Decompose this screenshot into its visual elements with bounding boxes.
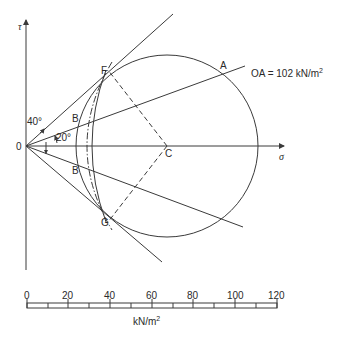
point-B-lower-label: B — [72, 165, 79, 176]
mohr-circle-diagram: τ σ 0 A F B B C G 40° 20° OA = 102 kN/m2… — [0, 0, 343, 343]
line-20-lower — [26, 146, 243, 227]
point-A-label: A — [220, 60, 227, 71]
origin-label: 0 — [16, 141, 22, 152]
angle-40-label: 40° — [27, 116, 42, 127]
scale-tick-0: 0 — [24, 290, 30, 301]
scale-tick-60: 60 — [146, 290, 158, 301]
scale-unit-label: kN/m2 — [133, 315, 160, 327]
scale-tick-40: 40 — [104, 290, 116, 301]
line-40-lower — [26, 146, 162, 262]
oa-annotation: OA = 102 kN/m2 — [251, 67, 323, 79]
scale-tick-120: 120 — [268, 290, 285, 301]
scale-tick-80: 80 — [187, 290, 199, 301]
scale-tick-100: 100 — [227, 290, 244, 301]
point-B-upper-label: B — [72, 113, 79, 124]
line-40-upper — [26, 14, 173, 146]
dashed-CG — [108, 146, 167, 222]
point-F-label: F — [101, 65, 107, 76]
point-C-label: C — [165, 148, 172, 159]
scale-tick-20: 20 — [62, 290, 74, 301]
point-G-label: G — [101, 217, 109, 228]
dashed-CF — [108, 70, 167, 146]
sigma-label: σ — [279, 151, 285, 162]
angle-20-label: 20° — [56, 132, 71, 143]
tau-label: τ — [18, 21, 22, 32]
scale-bar: 0 20 40 60 80 100 120 kN/m2 — [24, 290, 285, 327]
